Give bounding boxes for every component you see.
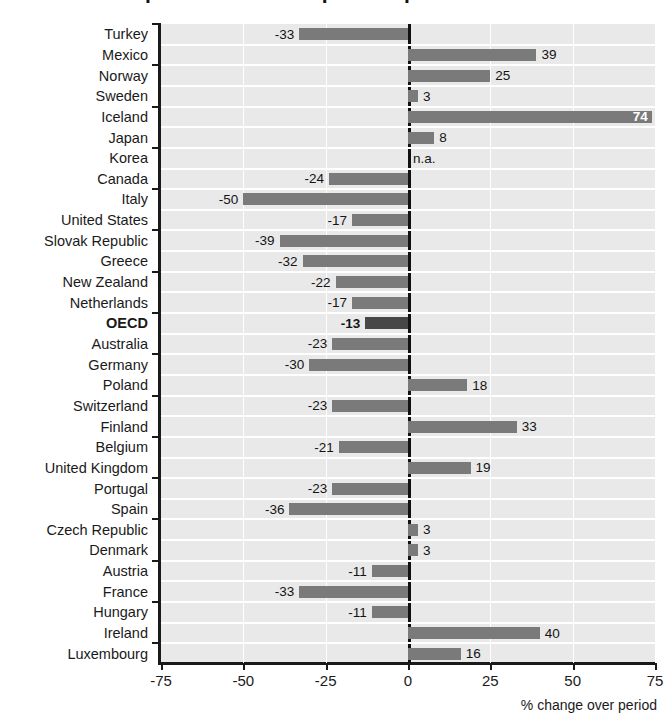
bar bbox=[408, 648, 461, 660]
bar bbox=[289, 503, 408, 515]
bar-value-label: -13 bbox=[0, 313, 360, 334]
category-label: Sweden bbox=[0, 86, 148, 107]
bar bbox=[408, 70, 490, 82]
bar-value-label: -22 bbox=[0, 272, 331, 293]
bar bbox=[408, 544, 418, 556]
x-axis-tick bbox=[408, 663, 410, 670]
chart-row: Switzerland-23 bbox=[0, 396, 661, 417]
bar-value-label: 3 bbox=[423, 86, 503, 107]
chart-row: Norway25 bbox=[0, 65, 661, 86]
bar-value-label: 18 bbox=[472, 375, 552, 396]
chart-row: Turkey-33 bbox=[0, 24, 661, 45]
bar-value-label: -32 bbox=[0, 251, 298, 272]
bar-value-label: 16 bbox=[466, 643, 546, 664]
bar-value-label: -23 bbox=[0, 334, 327, 355]
x-tick-label: -75 bbox=[126, 672, 196, 689]
chart-row: United States-17 bbox=[0, 210, 661, 231]
bar bbox=[352, 297, 408, 309]
bar-value-label: -39 bbox=[0, 230, 275, 251]
bar-value-label: -23 bbox=[0, 478, 327, 499]
bar-value-label: 3 bbox=[423, 540, 503, 561]
category-label: United Kingdom bbox=[0, 458, 148, 479]
bar bbox=[336, 276, 408, 288]
chart-row: Italy-50 bbox=[0, 189, 661, 210]
bar-value-label: 33 bbox=[522, 416, 602, 437]
category-label: Japan bbox=[0, 127, 148, 148]
x-tick-label: -25 bbox=[291, 672, 361, 689]
chart-row: OECD-13 bbox=[0, 313, 661, 334]
bar bbox=[339, 441, 408, 453]
chart-row: Iceland74 bbox=[0, 107, 661, 128]
bar bbox=[332, 400, 408, 412]
bar bbox=[408, 132, 434, 144]
bar bbox=[309, 359, 408, 371]
category-label: Denmark bbox=[0, 540, 148, 561]
bar bbox=[408, 90, 418, 102]
bar bbox=[372, 565, 408, 577]
x-tick-label: 50 bbox=[538, 672, 608, 689]
chart-row: Japan8 bbox=[0, 127, 661, 148]
bar bbox=[365, 317, 408, 329]
category-label: Luxembourg bbox=[0, 643, 148, 664]
bar bbox=[329, 173, 408, 185]
category-label: Ireland bbox=[0, 623, 148, 644]
bar bbox=[408, 421, 517, 433]
bar bbox=[408, 379, 467, 391]
chart-row: Spain-36 bbox=[0, 499, 661, 520]
bar bbox=[372, 606, 408, 618]
chart-row: Germany-30 bbox=[0, 354, 661, 375]
x-axis-tick bbox=[161, 663, 163, 670]
chart-row: Canada-24 bbox=[0, 169, 661, 190]
bar bbox=[352, 214, 408, 226]
bar-value-label: -17 bbox=[0, 292, 347, 313]
bar bbox=[332, 483, 408, 495]
bar-value-label: -21 bbox=[0, 437, 334, 458]
bar-value-label: -11 bbox=[0, 561, 367, 582]
chart-row: Greece-32 bbox=[0, 251, 661, 272]
bar-value-label: -24 bbox=[0, 169, 324, 190]
category-label: Norway bbox=[0, 65, 148, 86]
x-tick-label: 75 bbox=[620, 672, 668, 689]
bar bbox=[303, 255, 408, 267]
chart-row: Finland33 bbox=[0, 416, 661, 437]
chart-row: Poland18 bbox=[0, 375, 661, 396]
x-axis-tick bbox=[490, 663, 492, 670]
category-label: Korea bbox=[0, 148, 148, 169]
category-label: Czech Republic bbox=[0, 519, 148, 540]
chart-row: Netherlands-17 bbox=[0, 292, 661, 313]
x-tick-label: 25 bbox=[455, 672, 525, 689]
chart-row: Denmark3 bbox=[0, 540, 661, 561]
bar bbox=[299, 28, 408, 40]
x-axis-tick bbox=[655, 663, 657, 670]
bar-value-label: 39 bbox=[541, 45, 621, 66]
chart-row: Belgium-21 bbox=[0, 437, 661, 458]
bar-value-label: 19 bbox=[476, 458, 556, 479]
chart-row: France-33 bbox=[0, 581, 661, 602]
bar-value-label: 40 bbox=[545, 623, 625, 644]
bar bbox=[332, 338, 408, 350]
chart-row: Austria-11 bbox=[0, 561, 661, 582]
chart-row: New Zealand-22 bbox=[0, 272, 661, 293]
bar-value-label: -23 bbox=[0, 396, 327, 417]
bar-value-label: -36 bbox=[0, 499, 284, 520]
x-axis-tick bbox=[326, 663, 328, 670]
bar-value-label: 8 bbox=[439, 127, 519, 148]
bar-value-label: 74 bbox=[0, 107, 648, 128]
category-label: Poland bbox=[0, 375, 148, 396]
x-tick-label: -50 bbox=[208, 672, 278, 689]
x-axis-title: % change over period bbox=[521, 697, 657, 713]
chart-row: Hungary-11 bbox=[0, 602, 661, 623]
x-axis-tick bbox=[243, 663, 245, 670]
bar-value-label: n.a. bbox=[413, 148, 493, 169]
bar bbox=[408, 462, 471, 474]
chart-row: Slovak Republic-39 bbox=[0, 230, 661, 251]
bar-value-label: -11 bbox=[0, 602, 367, 623]
bar-value-label: -30 bbox=[0, 354, 304, 375]
bar bbox=[280, 235, 408, 247]
chart-row: Korean.a. bbox=[0, 148, 661, 169]
chart-row: Ireland40 bbox=[0, 623, 661, 644]
x-axis-tick bbox=[573, 663, 575, 670]
chart-row: Luxembourg16 bbox=[0, 643, 661, 664]
bar bbox=[299, 586, 408, 598]
category-label: Mexico bbox=[0, 45, 148, 66]
